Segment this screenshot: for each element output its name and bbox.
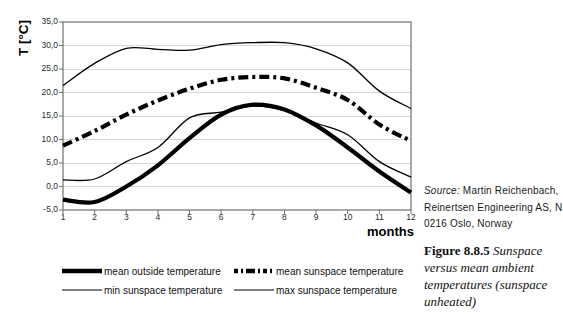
x-tick-label: 7 [242, 212, 264, 222]
y-tick-label: 20,0 [20, 87, 58, 97]
series-max-sunspace-temperature [63, 42, 411, 108]
legend-label: min sunspace temperature [104, 285, 222, 296]
legend-item: min sunspace temperature [62, 283, 234, 297]
legend-label: max sunspace temperature [276, 285, 397, 296]
series-min-sunspace-temperature [63, 106, 411, 181]
legend-item: mean sunspace temperature [234, 264, 444, 278]
plot-area [63, 22, 411, 210]
figure-page: T [°C] 35,030,025,020,015,010,05,00,0-5,… [0, 0, 563, 318]
y-tick-label: 15,0 [20, 110, 58, 120]
source-note: Source: Martin Reichenbach, Reinertsen E… [424, 183, 563, 233]
series-mean-sunspace-temperature [63, 77, 411, 146]
source-line: Reinertsen Engineering AS, N [424, 200, 563, 217]
x-tick-label: 1 [52, 212, 74, 222]
x-tick-label: 8 [273, 212, 295, 222]
legend-swatch-thin-solid [62, 284, 102, 296]
x-tick-label: 4 [147, 212, 169, 222]
legend-swatch-thick-solid [62, 265, 102, 277]
y-tick-label: 10,0 [20, 134, 58, 144]
y-tick-label: 25,0 [20, 63, 58, 73]
source-author: Martin Reichenbach, [460, 185, 559, 196]
legend: mean outside temperaturemean sunspace te… [62, 264, 444, 297]
caption-column: Source: Martin Reichenbach, Reinertsen E… [424, 183, 563, 310]
legend-label: mean outside temperature [104, 266, 221, 277]
legend-item: mean outside temperature [62, 264, 234, 278]
x-tick-label: 11 [368, 212, 390, 222]
source-line: Source: Martin Reichenbach, [424, 183, 563, 200]
figure-caption-number: Figure 8.8.5 [424, 243, 490, 258]
y-tick-label: 5,0 [20, 157, 58, 167]
x-tick-label: 5 [179, 212, 201, 222]
x-tick-label: 9 [305, 212, 327, 222]
x-axis-title: months [298, 224, 414, 239]
x-tick-label: 10 [337, 212, 359, 222]
legend-label: mean sunspace temperature [276, 266, 403, 277]
legend-swatch-thin-solid [234, 284, 274, 296]
source-label: Source: [424, 185, 460, 196]
x-tick-label: 2 [84, 212, 106, 222]
y-tick-label: 35,0 [20, 16, 58, 26]
x-tick-label: 3 [115, 212, 137, 222]
legend-swatch-thick-dashdot [234, 265, 274, 277]
legend-item: max sunspace temperature [234, 283, 444, 297]
y-tick-label: 0,0 [20, 181, 58, 191]
x-tick-label: 12 [400, 212, 422, 222]
x-tick-label: 6 [210, 212, 232, 222]
figure-caption: Figure 8.8.5 Sunspace versus mean ambien… [424, 242, 563, 310]
source-line: 0216 Oslo, Norway [424, 216, 563, 233]
y-tick-label: 30,0 [20, 40, 58, 50]
